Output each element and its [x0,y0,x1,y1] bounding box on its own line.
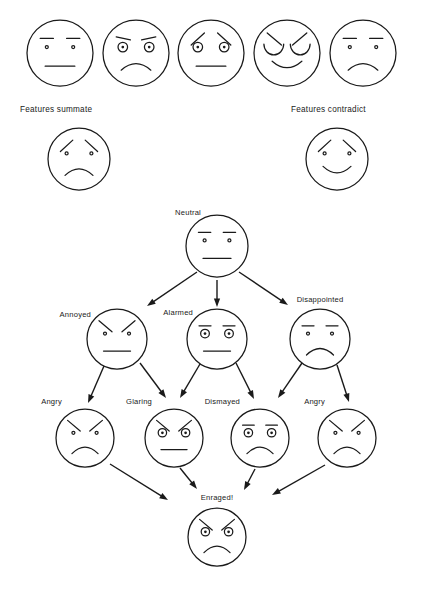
arrow-head [147,299,156,306]
pupil-right-icon [227,530,230,533]
arrow-annoyed-to-glaring [140,363,166,398]
node-face-disappointed [290,309,350,369]
arrow-shaft [282,363,302,393]
arrow-shaft [140,363,162,393]
caption-features-contradict: Features contradict [291,105,366,114]
top-row-face-4 [254,20,320,86]
pupil-right-icon [148,46,151,49]
arrow-shaft [278,465,325,492]
face-outline [318,409,376,467]
face-outline [178,20,244,86]
face-outline [103,20,169,86]
arrow-head [272,488,281,495]
top-row-face-5 [330,20,396,86]
node-label-angry-left: Angry [41,397,62,406]
arrow-head [247,390,254,399]
face-outline [87,309,147,369]
arrow-layer [88,272,349,500]
arrow-neutral-to-annoyed [147,272,197,306]
node-label-neutral: Neutral [175,208,201,217]
arrow-glaring-to-enraged [180,468,197,489]
face-outline [187,309,247,369]
node-label-alarmed: Alarmed [163,308,193,317]
pupil-right-icon [184,431,187,434]
node-face-enraged [188,508,246,566]
top-row-face-1 [27,20,93,86]
arrow-head [88,394,94,403]
arrow-head [158,389,166,398]
arrow-shaft [180,468,193,484]
face-outline [27,20,93,86]
node-face-dismayed [231,409,289,467]
arrow-head [214,299,220,308]
arrow-shaft [236,363,251,393]
arrow-head [159,493,168,500]
node-face-annoyed [87,309,147,369]
node-face-angry-right [318,409,376,467]
node-face-angry-left [56,409,114,467]
arrow-shaft [110,464,162,497]
contradict-face [306,128,368,190]
node-label-disappointed: Disappointed [297,295,344,304]
pupil-right-icon [228,332,231,335]
face-outline [56,409,114,467]
pupil-left-icon [121,46,124,49]
arrow-shaft [337,365,347,396]
arrow-head [343,393,349,402]
node-label-glaring: Glaring [126,397,152,406]
arrow-shaft [152,272,197,302]
pupil-right-icon [270,431,273,434]
face-outline [231,409,289,467]
node-label-angry-right: Angry [304,397,325,406]
face-outline [188,508,246,566]
pupil-left-icon [247,431,250,434]
face-outline [186,215,248,277]
caption-features-summate: Features summate [20,105,92,114]
arrow-head [279,298,288,305]
arrow-head [244,481,251,490]
node-face-neutral [186,215,248,277]
arrow-shaft [247,469,255,484]
pupil-right-icon [223,46,226,49]
node-label-dismayed: Dismayed [205,397,240,406]
arrow-disappointed-to-dismayed [278,363,302,398]
face-outline [48,128,110,190]
node-face-glaring [145,409,203,467]
summate-face [48,128,110,190]
arrow-shaft [91,366,104,397]
node-label-enraged: Enraged! [201,493,233,502]
arrow-annoyed-to-angry-left [88,366,104,403]
top-row-face-2 [103,20,169,86]
arrow-neutral-to-disappointed [239,272,288,305]
face-outline [254,20,320,86]
figure-canvas: Features summate Features contradict Neu… [0,0,423,592]
arrow-shaft [239,272,283,301]
arrow-shaft [183,364,200,392]
face-outline [290,309,350,369]
face-outline [330,20,396,86]
node-face-alarmed [187,309,247,369]
arrow-angry-left-to-enraged [110,464,168,500]
pupil-left-icon [204,332,207,335]
pupil-left-icon [196,46,199,49]
arrow-head [180,389,187,398]
arrow-head [278,389,285,398]
arrow-disappointed-to-angry-right [337,365,349,402]
pupil-left-icon [161,431,164,434]
arrow-dismayed-to-enraged [244,469,255,490]
arrow-alarmed-to-dismayed [236,363,254,399]
face-outline [306,128,368,190]
face-layer [27,20,396,566]
arrow-angry-right-to-enraged [272,465,325,495]
pupil-left-icon [204,530,207,533]
arrow-neutral-to-alarmed [214,280,220,307]
face-outline [145,409,203,467]
node-label-annoyed: Annoyed [60,310,91,319]
emotion-feature-diagram: Features summate Features contradict Neu… [0,0,423,592]
arrow-alarmed-to-glaring [180,364,200,398]
top-row-face-3 [178,20,244,86]
